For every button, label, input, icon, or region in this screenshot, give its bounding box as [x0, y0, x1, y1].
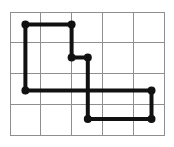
path-vertex-dot	[148, 115, 156, 123]
figure-canvas: Closed polygonal path drawn on a rectang…	[0, 0, 174, 147]
path-vertex-dot	[68, 21, 76, 29]
grid-path-figure	[0, 0, 174, 147]
path-vertex-dot	[84, 54, 92, 62]
path-vertex-dot	[84, 115, 92, 123]
path-vertex-dot	[21, 21, 29, 29]
path-vertex-dot	[148, 87, 156, 95]
path-vertex-dot	[68, 54, 76, 62]
path-vertex-dot	[21, 87, 29, 95]
